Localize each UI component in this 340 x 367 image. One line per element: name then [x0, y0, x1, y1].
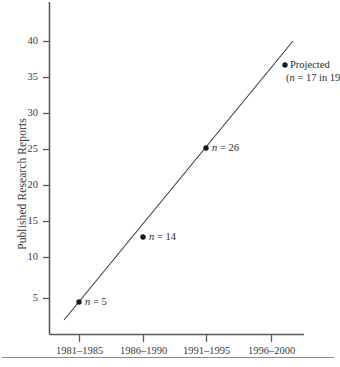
annotation-n-5: n = 5: [85, 296, 107, 308]
trend-line: [64, 41, 293, 320]
y-tick-label-10: 10: [14, 252, 38, 263]
y-tick-label-5: 5: [14, 293, 38, 304]
annotation-projected-value: = 17 in 19: [295, 72, 340, 83]
data-point-1981-1985: [76, 299, 81, 304]
data-point-1996-2000-projected: [282, 62, 287, 67]
y-tick-label-35: 35: [14, 72, 38, 83]
x-tick-label-1996-2000: 1996–2000: [236, 346, 307, 357]
annotation-n-26-value: = 26: [217, 142, 239, 153]
x-tick-label-1986-1990: 1986–1990: [108, 346, 179, 357]
annotation-n-26: n = 26: [212, 142, 239, 154]
y-tick-label-25: 25: [14, 144, 38, 155]
annotation-projected-line1: Projected: [290, 59, 340, 72]
annotation-projected: Projected (n = 17 in 19: [290, 59, 340, 85]
y-tick-label-20: 20: [14, 180, 38, 191]
y-tick-label-30: 30: [14, 108, 38, 119]
data-point-1986-1990: [140, 234, 145, 239]
data-point-1991-1995: [203, 145, 208, 150]
annotation-n-14: n = 14: [149, 231, 176, 243]
x-axis-ticks: [80, 335, 272, 343]
y-tick-label-15: 15: [14, 216, 38, 227]
y-axis-ticks: [43, 42, 50, 299]
y-tick-label-40: 40: [14, 36, 38, 47]
footer-divider: [2, 357, 334, 358]
annotation-n-14-value: = 14: [154, 231, 176, 242]
x-tick-label-1981-1985: 1981–1985: [44, 346, 115, 357]
annotation-n-5-value: = 5: [90, 296, 106, 307]
x-tick-label-1991-1995: 1991–1995: [171, 346, 242, 357]
annotation-projected-line2: (n = 17 in 19: [286, 72, 340, 85]
